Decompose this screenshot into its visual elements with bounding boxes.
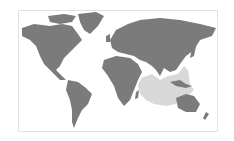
- south-america: [66, 80, 92, 128]
- world-map: [0, 0, 234, 141]
- arctic-islands: [48, 14, 76, 24]
- greenland: [78, 12, 104, 34]
- british-isles: [106, 34, 110, 42]
- australia: [176, 94, 200, 112]
- madagascar: [135, 90, 139, 99]
- new-zealand: [203, 112, 209, 120]
- north-america: [22, 24, 82, 80]
